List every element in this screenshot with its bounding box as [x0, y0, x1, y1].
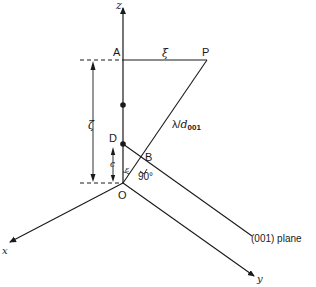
y-axis-label: y — [256, 273, 263, 284]
plane-line — [123, 144, 252, 236]
plane-label: (001) plane — [251, 233, 302, 244]
point-B-label: B — [145, 151, 152, 163]
point-A-label: A — [113, 46, 121, 58]
reciprocal-lattice-diagram: z x y A P D B O ξ ζ c ε 90° λ/d001 (001)… — [0, 0, 316, 287]
lambda-d-label: λ/d001 — [172, 118, 202, 132]
z-axis-label: z — [115, 0, 122, 12]
x-axis-label: x — [2, 245, 8, 256]
point-D-label: D — [109, 132, 117, 144]
c-label: c — [110, 159, 115, 169]
lattice-point-D — [120, 141, 126, 147]
point-P-label: P — [202, 46, 209, 58]
point-O-label: O — [118, 189, 127, 201]
y-axis — [123, 183, 254, 276]
lambda-d-line — [123, 60, 207, 183]
zeta-label: ζ — [88, 119, 95, 132]
xi-label: ξ — [162, 47, 169, 60]
epsilon-label: ε — [125, 165, 129, 174]
right-angle-label: 90° — [138, 171, 153, 182]
lattice-point-mid — [120, 102, 126, 108]
x-axis — [10, 183, 123, 242]
